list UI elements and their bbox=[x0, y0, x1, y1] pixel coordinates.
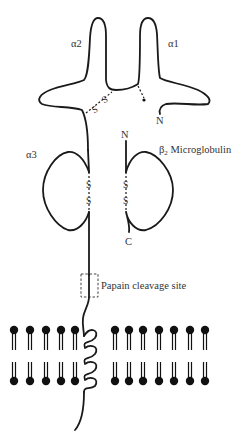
alpha2-disulfide-bond: S S bbox=[86, 92, 112, 115]
mhc-class-i-diagram: S S α2 α1 N S S α3 S S N C β2 Microglobu… bbox=[0, 0, 245, 442]
beta2-microglobulin-label: β2 Microglobulin bbox=[159, 144, 232, 157]
alpha1-n-terminus-label: N bbox=[156, 115, 164, 126]
svg-text:S: S bbox=[90, 104, 100, 115]
beta2-n-terminus-label: N bbox=[121, 129, 129, 140]
lipid-right-top bbox=[111, 326, 209, 350]
svg-text:S: S bbox=[123, 196, 128, 206]
svg-text:S: S bbox=[123, 180, 128, 190]
lipid-left-bottom bbox=[10, 362, 79, 385]
beta2-c-terminus-label: C bbox=[125, 236, 132, 247]
svg-text:S: S bbox=[86, 196, 91, 206]
alpha3-label: α3 bbox=[26, 149, 37, 160]
lipid-bilayer bbox=[10, 326, 209, 385]
svg-text:S: S bbox=[86, 180, 91, 190]
transmembrane-helix bbox=[75, 275, 96, 430]
alpha2-label: α2 bbox=[71, 38, 82, 49]
lipid-left-top bbox=[10, 326, 79, 350]
lipid-right-bottom bbox=[111, 362, 209, 385]
alpha1-label: α1 bbox=[168, 38, 179, 49]
papain-cleavage-label: Papain cleavage site bbox=[101, 280, 186, 291]
terminal-dot-icon bbox=[142, 98, 145, 101]
alpha3-domain: S S bbox=[43, 150, 91, 275]
